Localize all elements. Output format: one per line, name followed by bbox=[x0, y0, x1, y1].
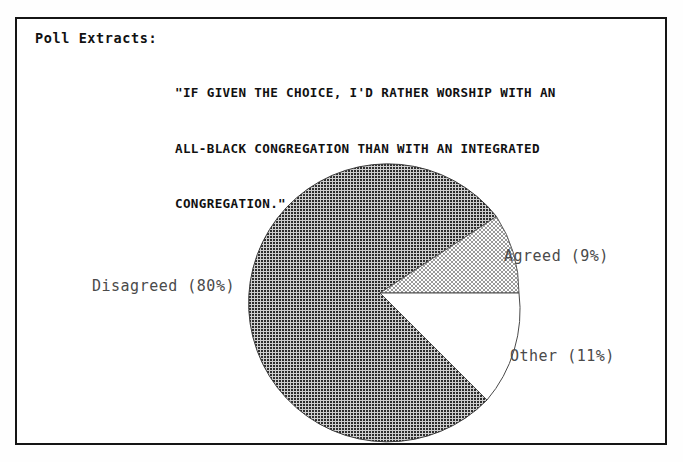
pie-label-disagreed: Disagreed (80%) bbox=[92, 277, 235, 295]
pie-chart: Disagreed (80%) Agreed (9%) Other (11%) bbox=[17, 19, 669, 447]
pie-label-other: Other (11%) bbox=[510, 347, 615, 365]
poll-extract-panel: Poll Extracts: "IF GIVEN THE CHOICE, I'D… bbox=[15, 17, 667, 445]
page-canvas: Poll Extracts: "IF GIVEN THE CHOICE, I'D… bbox=[0, 0, 683, 462]
pie-chart-graphic bbox=[17, 19, 669, 447]
pie-label-agreed: Agreed (9%) bbox=[504, 247, 609, 265]
